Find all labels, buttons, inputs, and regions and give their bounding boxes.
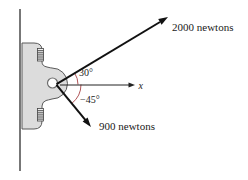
bolt-threads-bottom-icon <box>38 109 44 122</box>
pin-hole <box>48 78 58 88</box>
angle-arc-30 <box>75 73 78 84</box>
bolt-threads-top-icon <box>38 49 44 62</box>
force-2000-vector <box>57 22 161 84</box>
x-axis-arrowhead-icon <box>129 83 136 88</box>
force-2000-arrowhead-icon <box>158 17 168 25</box>
angle-neg45-label: −45° <box>80 94 100 105</box>
bracket-shape <box>22 43 67 129</box>
force-diagram-figure: x 2000 newtons 900 newtons 30° −45° <box>0 0 248 180</box>
force-900-label: 900 newtons <box>99 120 155 132</box>
angle-30-label: 30° <box>79 67 93 78</box>
force-diagram-canvas: x 2000 newtons 900 newtons 30° −45° <box>0 0 248 180</box>
x-axis-label: x <box>138 80 144 91</box>
force-2000-label: 2000 newtons <box>172 21 233 33</box>
